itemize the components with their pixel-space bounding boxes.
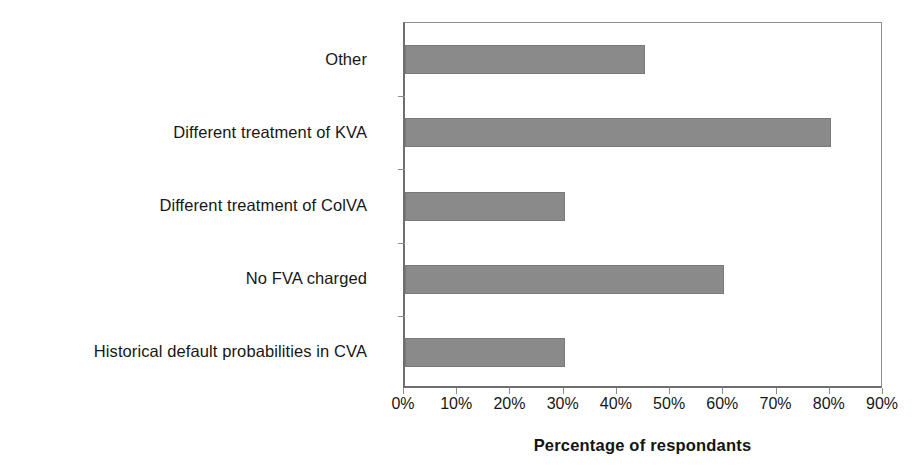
bar-chart: OtherDifferent treatment of KVADifferent… xyxy=(0,0,924,468)
x-axis-tick xyxy=(776,388,777,394)
x-axis-tick xyxy=(829,388,830,394)
bar-row xyxy=(405,265,881,294)
y-axis-tick xyxy=(398,316,405,317)
bar-row xyxy=(405,118,881,147)
x-axis-tick-label: 50% xyxy=(653,396,685,412)
category-label: Different treatment of KVA xyxy=(0,124,387,141)
bar xyxy=(405,265,724,294)
bar-row xyxy=(405,192,881,221)
x-axis-tick-label: 20% xyxy=(493,396,525,412)
x-axis-tick xyxy=(616,388,617,394)
x-axis-tick-label: 10% xyxy=(440,396,472,412)
category-label: Other xyxy=(0,51,387,68)
plot-area xyxy=(403,22,882,388)
bar xyxy=(405,45,645,74)
x-axis-tick-label: 70% xyxy=(760,396,792,412)
x-axis-title: Percentage of respondants xyxy=(403,436,882,455)
bar xyxy=(405,192,565,221)
x-axis-tick xyxy=(882,388,883,394)
x-axis: 0%10%20%30%40%50%60%70%80%90% xyxy=(403,388,882,428)
category-label: Different treatment of ColVA xyxy=(0,197,387,214)
x-axis-tick-label: 40% xyxy=(600,396,632,412)
x-axis-tick xyxy=(509,388,510,394)
bar xyxy=(405,338,565,367)
y-axis-tick xyxy=(398,243,405,244)
x-axis-tick xyxy=(669,388,670,394)
y-axis-category-labels: OtherDifferent treatment of KVADifferent… xyxy=(0,22,387,388)
x-axis-tick-label: 0% xyxy=(391,396,414,412)
bar-row xyxy=(405,45,881,74)
category-label: Historical default probabilities in CVA xyxy=(0,343,387,360)
category-label: No FVA charged xyxy=(0,270,387,287)
x-axis-tick-label: 60% xyxy=(706,396,738,412)
x-axis-tick-label: 30% xyxy=(547,396,579,412)
x-axis-tick xyxy=(456,388,457,394)
y-axis-tick xyxy=(398,96,405,97)
x-axis-tick xyxy=(563,388,564,394)
bar xyxy=(405,118,831,147)
x-axis-tick-label: 80% xyxy=(813,396,845,412)
bar-row xyxy=(405,338,881,367)
x-axis-tick xyxy=(722,388,723,394)
x-axis-tick xyxy=(403,388,404,394)
y-axis-tick xyxy=(398,169,405,170)
x-axis-tick-label: 90% xyxy=(866,396,898,412)
